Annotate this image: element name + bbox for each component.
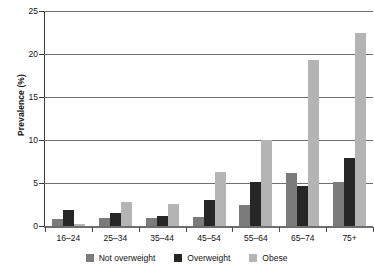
legend-label: Overweight	[187, 253, 230, 263]
bar-group-25-34	[92, 11, 139, 226]
bar-not-overweight-65-74[interactable]	[286, 173, 297, 226]
x-label-75+: 75+	[326, 233, 373, 247]
y-tick-label-0: 0	[16, 221, 38, 231]
bar-overweight-25-34[interactable]	[110, 213, 121, 226]
y-tick-label-20: 20	[16, 49, 38, 59]
legend-swatch-icon	[86, 254, 94, 262]
y-tick-label-5: 5	[16, 178, 38, 188]
x-tick-0	[45, 227, 46, 232]
y-tick-label-25: 25	[16, 6, 38, 16]
bar-overweight-55-64[interactable]	[250, 182, 261, 226]
x-tick-5	[279, 227, 280, 232]
y-tick-5	[39, 183, 44, 184]
bar-overweight-45-54[interactable]	[204, 200, 215, 226]
x-axis-ticks	[45, 227, 373, 232]
bar-obese-55-64[interactable]	[261, 140, 272, 226]
x-tick-2	[139, 227, 140, 232]
bar-obese-25-34[interactable]	[121, 202, 132, 226]
bar-not-overweight-55-64[interactable]	[239, 205, 250, 226]
legend-label: Not overweight	[99, 253, 156, 263]
legend-swatch-icon	[249, 254, 257, 262]
y-tick-label-15: 15	[16, 92, 38, 102]
plot-area	[44, 11, 373, 227]
y-tick-25	[39, 11, 44, 12]
bar-group-45-54	[186, 11, 233, 226]
legend-label: Obese	[262, 253, 287, 263]
bar-group-55-64	[232, 11, 279, 226]
y-tick-10	[39, 140, 44, 141]
y-tick-20	[39, 54, 44, 55]
bar-not-overweight-35-44[interactable]	[146, 218, 157, 226]
x-label-35-44: 35–44	[139, 233, 186, 247]
bar-not-overweight-16-24[interactable]	[52, 219, 63, 226]
x-label-25-34: 25–34	[92, 233, 139, 247]
bar-obese-65-74[interactable]	[308, 60, 319, 226]
legend-swatch-icon	[174, 254, 182, 262]
bar-groups	[45, 11, 373, 226]
x-label-65-74: 65–74	[279, 233, 326, 247]
legend-item-not-overweight[interactable]: Not overweight	[86, 253, 156, 263]
bar-group-65-74	[279, 11, 326, 226]
x-tick-4	[232, 227, 233, 232]
legend-item-overweight[interactable]: Overweight	[174, 253, 230, 263]
bar-overweight-16-24[interactable]	[63, 210, 74, 226]
bar-not-overweight-25-34[interactable]	[99, 218, 110, 226]
bar-overweight-35-44[interactable]	[157, 216, 168, 226]
bar-group-35-44	[139, 11, 186, 226]
x-tick-3	[186, 227, 187, 232]
cropped-title	[0, 0, 373, 7]
bar-overweight-75+[interactable]	[344, 158, 355, 226]
y-tick-label-10: 10	[16, 135, 38, 145]
x-tick-6	[326, 227, 327, 232]
bar-obese-35-44[interactable]	[168, 204, 179, 226]
bar-group-75+	[326, 11, 373, 226]
y-tick-15	[39, 97, 44, 98]
bar-not-overweight-45-54[interactable]	[193, 217, 204, 226]
x-tick-1	[92, 227, 93, 232]
bar-overweight-65-74[interactable]	[297, 186, 308, 226]
chart-legend: Not overweightOverweightObese	[0, 253, 373, 263]
x-label-55-64: 55–64	[232, 233, 279, 247]
bar-not-overweight-75+[interactable]	[333, 182, 344, 226]
x-axis-tick-labels: 16–2425–3435–4445–5455–6465–7475+	[45, 233, 373, 247]
bar-obese-45-54[interactable]	[215, 172, 226, 226]
x-label-45-54: 45–54	[186, 233, 233, 247]
bar-obese-75+[interactable]	[355, 33, 366, 227]
x-label-16-24: 16–24	[45, 233, 92, 247]
legend-item-obese[interactable]: Obese	[249, 253, 287, 263]
bar-group-16-24	[45, 11, 92, 226]
